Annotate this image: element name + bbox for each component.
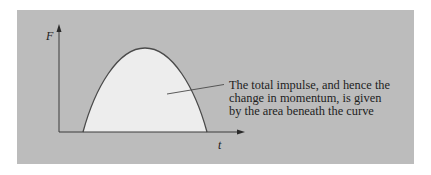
y-axis-label: F (46, 29, 53, 44)
y-axis-arrow-icon (57, 24, 62, 32)
annotation-text: The total impulse, and hence the change … (229, 79, 390, 119)
annotation-line: by the area beneath the curve (229, 105, 390, 118)
x-axis-arrow-icon (237, 130, 245, 135)
x-axis-label: t (218, 138, 221, 153)
